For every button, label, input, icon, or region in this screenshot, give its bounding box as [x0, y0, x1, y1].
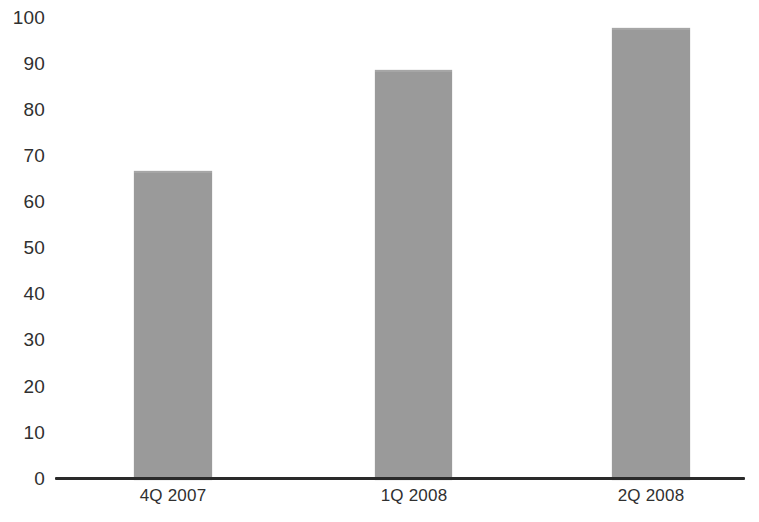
x-tick-label-1q-2008: 1Q 2008	[354, 487, 474, 505]
y-tick-label-0: 0	[1, 469, 45, 488]
y-tick-label-10: 10	[1, 423, 45, 442]
bar-chart: 100 90 80 70 60 50 40 30 20 10 0 4Q 2007…	[0, 0, 759, 522]
x-tick-label-2q-2008: 2Q 2008	[591, 487, 711, 505]
y-tick-label-30: 30	[1, 330, 45, 349]
x-axis-line	[55, 477, 745, 480]
y-tick-label-60: 60	[1, 192, 45, 211]
plot-area	[55, 0, 745, 480]
y-axis: 100 90 80 70 60 50 40 30 20 10 0	[0, 0, 50, 522]
bar-4q-2007	[134, 171, 212, 480]
y-tick-label-80: 80	[1, 100, 45, 119]
x-tick-label-4q-2007: 4Q 2007	[113, 487, 233, 505]
bar-2q-2008	[612, 28, 690, 480]
y-tick-label-50: 50	[1, 238, 45, 257]
bar-1q-2008	[375, 70, 452, 480]
y-tick-label-70: 70	[1, 146, 45, 165]
y-tick-label-90: 90	[1, 54, 45, 73]
y-tick-label-100: 100	[1, 8, 45, 27]
y-tick-label-40: 40	[1, 284, 45, 303]
y-tick-label-20: 20	[1, 377, 45, 396]
